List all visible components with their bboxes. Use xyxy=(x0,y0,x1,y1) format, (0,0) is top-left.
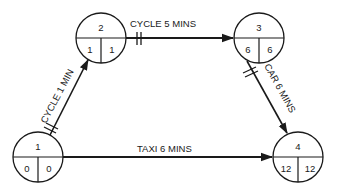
edge-label-2-to-3: CYCLE 5 MINS xyxy=(130,18,196,29)
node-1: 1 0 0 xyxy=(13,132,63,182)
node-4: 4 12 12 xyxy=(273,132,323,182)
node-number: 4 xyxy=(295,141,300,152)
edge-label-3-to-4: CAR 6 MINS xyxy=(262,62,298,115)
node-latest-time: 6 xyxy=(267,44,272,55)
node-latest-time: 1 xyxy=(109,44,114,55)
edge-label-1-to-4: TAXI 6 MINS xyxy=(137,143,192,154)
edge-1-to-4: TAXI 6 MINS xyxy=(63,143,272,157)
node-earliest-time: 12 xyxy=(281,163,292,174)
edge-3-to-4: CAR 6 MINS xyxy=(243,61,298,133)
network-diagram: CYCLE 1 MIN CYCLE 5 MINS CAR 6 MINS TAXI… xyxy=(0,0,338,193)
node-3: 3 6 6 xyxy=(234,13,284,63)
node-earliest-time: 1 xyxy=(87,44,92,55)
node-2: 2 1 1 xyxy=(76,13,126,63)
node-latest-time: 12 xyxy=(305,163,316,174)
node-number: 2 xyxy=(98,22,103,33)
node-number: 3 xyxy=(256,22,261,33)
edge-1-to-2: CYCLE 1 MIN xyxy=(38,60,88,135)
node-earliest-time: 0 xyxy=(24,163,29,174)
node-latest-time: 0 xyxy=(46,163,51,174)
node-number: 1 xyxy=(35,141,40,152)
node-earliest-time: 6 xyxy=(245,44,250,55)
edge-2-to-3: CYCLE 5 MINS xyxy=(126,18,233,45)
